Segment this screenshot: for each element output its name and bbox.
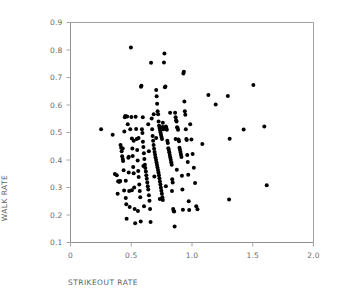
scatter-point	[128, 205, 132, 209]
scatter-point	[163, 85, 167, 89]
scatter-point	[226, 94, 230, 98]
scatter-point	[149, 61, 153, 65]
scatter-points-layer	[99, 46, 269, 229]
scatter-point	[129, 46, 133, 50]
scatter-point	[168, 111, 172, 115]
scatter-point	[171, 181, 175, 185]
scatter-point	[187, 208, 191, 212]
scatter-point	[193, 181, 197, 185]
scatter-point	[228, 137, 232, 141]
scatter-point	[131, 154, 135, 158]
scatter-point	[182, 99, 186, 103]
scatter-point	[152, 112, 156, 116]
scatter-point	[145, 177, 149, 181]
scatter-point	[179, 155, 183, 159]
scatter-point	[186, 173, 190, 177]
scatter-point	[141, 140, 145, 144]
scatter-point	[176, 128, 180, 132]
plot-frame	[71, 23, 314, 243]
scatter-point	[165, 128, 169, 132]
scatter-point	[147, 193, 151, 197]
scatter-point	[136, 209, 140, 213]
scatter-point	[121, 146, 125, 150]
scatter-point	[175, 120, 179, 124]
scatter-point	[172, 209, 176, 213]
y-tick-label: 0.5	[50, 128, 63, 137]
scatter-point	[122, 189, 126, 193]
scatter-point	[183, 113, 187, 117]
scatter-point	[140, 127, 144, 131]
scatter-point	[157, 120, 161, 124]
scatter-point	[182, 70, 186, 74]
scatter-point	[134, 115, 138, 119]
scatter-chart-figure: 0.10.20.30.40.50.60.70.80.9 00.51.01.52.…	[0, 0, 345, 304]
scatter-point	[124, 196, 128, 200]
x-tick-label: 1.5	[246, 251, 259, 260]
scatter-point	[127, 170, 131, 174]
scatter-point	[124, 202, 128, 206]
scatter-point	[180, 174, 184, 178]
scatter-point	[150, 116, 154, 120]
y-tick-label: 0.7	[50, 73, 63, 82]
scatter-point	[141, 145, 145, 149]
scatter-point	[155, 102, 159, 106]
scatter-point	[147, 199, 151, 203]
scatter-point	[142, 204, 146, 208]
scatter-point	[187, 199, 191, 203]
x-axis-title: STRIKEOUT RATE	[68, 278, 138, 287]
y-tick-label: 0.2	[50, 211, 63, 220]
scatter-point	[180, 187, 184, 191]
scatter-point	[144, 173, 148, 177]
scatter-point	[149, 220, 153, 224]
scatter-point	[227, 198, 231, 202]
scatter-point	[161, 121, 165, 125]
x-tick-label: 1.0	[186, 251, 199, 260]
scatter-point	[174, 137, 178, 141]
scatter-point	[141, 164, 145, 168]
scatter-point	[127, 155, 131, 159]
scatter-point	[158, 197, 162, 201]
scatter-point	[242, 127, 246, 131]
scatter-point	[139, 220, 143, 224]
y-tick-label: 0.4	[50, 156, 63, 165]
scatter-point	[122, 129, 126, 133]
scatter-point	[136, 169, 140, 173]
scatter-point	[131, 165, 135, 169]
scatter-point	[99, 127, 103, 131]
scatter-point	[251, 83, 255, 87]
y-axis-title: WALK RATE	[0, 168, 9, 228]
scatter-point	[111, 133, 115, 137]
scatter-point	[177, 139, 181, 143]
scatter-point	[144, 170, 148, 174]
scatter-point	[130, 188, 134, 192]
scatter-point	[138, 189, 142, 193]
scatter-point	[137, 182, 141, 186]
scatter-point	[184, 127, 188, 131]
scatter-point	[173, 225, 177, 229]
scatter-point	[132, 139, 136, 143]
scatter-point	[181, 208, 185, 212]
x-tick-label: 2.0	[307, 251, 320, 260]
scatter-point	[262, 124, 266, 128]
scatter-point	[129, 115, 133, 119]
scatter-point	[146, 187, 150, 191]
scatter-point	[162, 60, 166, 64]
scatter-point	[141, 115, 145, 119]
scatter-point	[151, 134, 155, 138]
scatter-point	[185, 138, 189, 142]
scatter-point	[137, 175, 141, 179]
y-tick-label: 0.6	[50, 101, 63, 110]
plot-canvas: 0.10.20.30.40.50.60.70.80.9 00.51.01.52.…	[0, 0, 345, 304]
scatter-point	[135, 148, 139, 152]
scatter-point	[125, 217, 129, 221]
scatter-point	[154, 136, 158, 140]
scatter-point	[145, 181, 149, 185]
y-tick-label: 0.3	[50, 183, 63, 192]
scatter-point	[122, 168, 126, 172]
x-axis-ticks	[71, 243, 314, 247]
scatter-point	[155, 94, 159, 98]
y-axis-ticks	[67, 23, 71, 243]
x-tick-label: 0	[68, 251, 73, 260]
scatter-point	[206, 93, 210, 97]
scatter-point	[139, 84, 143, 88]
